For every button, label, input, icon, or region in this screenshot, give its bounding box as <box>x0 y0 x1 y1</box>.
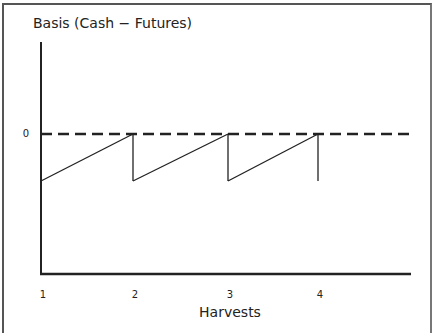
x-tick-label: 2 <box>132 289 138 300</box>
x-tick-label: 1 <box>40 289 46 300</box>
y-tick-label: 0 <box>23 128 29 139</box>
x-tick-label: 3 <box>227 289 233 300</box>
chart-title: Basis (Cash − Futures) <box>33 15 192 31</box>
x-tick-label: 4 <box>317 289 323 300</box>
x-axis-label: Harvests <box>199 304 261 320</box>
basis-rise-segment <box>228 134 318 181</box>
basis-rise-segment <box>133 134 228 181</box>
basis-rise-segment <box>41 134 133 181</box>
